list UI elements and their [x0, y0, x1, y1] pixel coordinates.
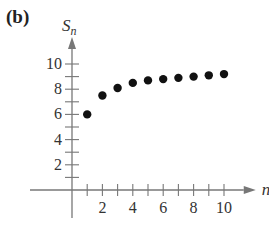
data-point: [220, 70, 228, 78]
y-tick-label: 10: [46, 55, 62, 72]
data-point: [98, 91, 106, 99]
y-axis-arrow-icon: [68, 37, 76, 49]
x-tick-label: 8: [190, 199, 198, 216]
x-tick-label: 6: [159, 199, 167, 216]
data-point: [83, 110, 91, 118]
x-tick-label: 2: [98, 199, 106, 216]
scatter-chart: 246810246810nSn: [0, 0, 269, 230]
x-axis-arrow-icon: [244, 186, 256, 194]
x-tick-label: 4: [129, 199, 137, 216]
y-tick-label: 8: [54, 80, 62, 97]
data-point: [113, 84, 121, 92]
data-point: [205, 71, 213, 79]
x-axis-title: n: [262, 180, 269, 199]
y-tick-label: 4: [54, 131, 62, 148]
data-point: [189, 72, 197, 80]
x-tick-label: 10: [216, 199, 232, 216]
y-tick-label: 2: [54, 156, 62, 173]
data-point: [159, 75, 167, 83]
data-point: [174, 74, 182, 82]
data-point: [144, 76, 152, 84]
data-point: [129, 79, 137, 87]
y-axis-title: Sn: [62, 16, 77, 38]
y-tick-label: 6: [54, 105, 62, 122]
